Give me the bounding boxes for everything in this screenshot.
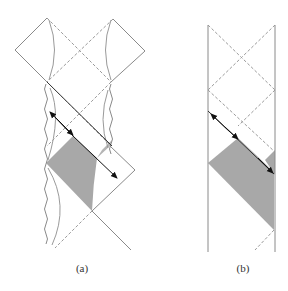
left-diamond xyxy=(15,18,47,82)
panel-b-label: (b) xyxy=(237,262,250,274)
penrose-diagrams xyxy=(0,0,288,291)
panel-a xyxy=(15,18,145,250)
shaded-region-b xyxy=(208,138,274,230)
shaded-region-a xyxy=(46,136,97,211)
right-diamond xyxy=(111,19,145,82)
panel-b xyxy=(208,25,275,252)
panel-a-label: (a) xyxy=(76,262,88,274)
